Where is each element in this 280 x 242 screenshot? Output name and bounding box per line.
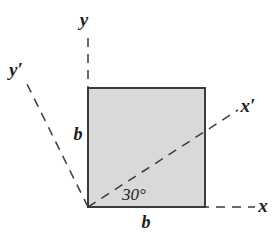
coordinate-axes-diagram: y x y′ x′ b b 30° [0,0,280,242]
square-shape [88,88,205,207]
axis-label-x-prime: x′ [240,95,256,116]
dimension-label-width: b [142,212,151,232]
figure-container: y x y′ x′ b b 30° [0,0,280,242]
dimension-label-height: b [74,124,83,144]
angle-annotation-30deg: 30° [121,185,146,204]
axis-label-x: x [257,195,268,216]
axis-label-y: y [78,9,89,30]
axis-label-y-prime: y′ [7,59,23,80]
